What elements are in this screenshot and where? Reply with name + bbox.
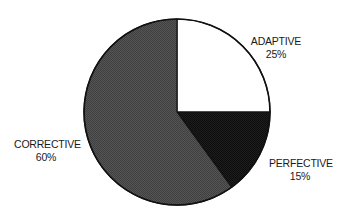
label-adaptive-pct: 25% bbox=[250, 48, 302, 61]
label-corrective-pct: 60% bbox=[14, 151, 78, 164]
label-corrective: CORRECTIVE 60% bbox=[14, 138, 78, 163]
label-corrective-name: CORRECTIVE bbox=[14, 138, 78, 151]
pie-slice-adaptive bbox=[177, 19, 270, 112]
label-perfective: PERFECTIVE 15% bbox=[269, 157, 331, 182]
label-adaptive-name: ADAPTIVE bbox=[250, 35, 302, 48]
pie-slices bbox=[84, 19, 270, 205]
label-perfective-pct: 15% bbox=[269, 170, 331, 183]
pie-chart bbox=[0, 0, 340, 215]
label-perfective-name: PERFECTIVE bbox=[269, 157, 331, 170]
label-adaptive: ADAPTIVE 25% bbox=[250, 35, 302, 60]
